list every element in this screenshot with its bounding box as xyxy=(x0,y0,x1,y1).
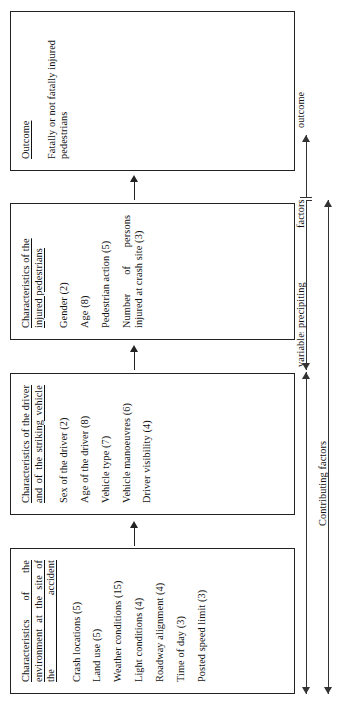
span-arrow-left xyxy=(302,363,310,370)
list-item: Sex of the driver (2) xyxy=(58,385,70,503)
box-vehicle-list: Sex of the driver (2) Age of the driver … xyxy=(58,385,154,503)
span-arrow-left xyxy=(324,687,332,694)
box-outcome-title: Outcome xyxy=(20,23,33,159)
arrow-right-icon xyxy=(129,520,139,546)
rotated-figure-wrapper: Characteristics of the environment at th… xyxy=(0,0,343,705)
list-item: Land use (5) xyxy=(91,560,103,682)
list-item: Weather conditions (15) xyxy=(112,560,124,682)
list-item: Roadway alignment (4) xyxy=(154,560,166,682)
span-arrow-right xyxy=(324,200,332,207)
arrow-shaft xyxy=(134,350,135,370)
list-item: Posted speed limit (3) xyxy=(196,560,208,682)
list-item: Crash locations (5) xyxy=(71,560,83,682)
list-item: Age (8) xyxy=(79,215,91,328)
arrow-shaft xyxy=(134,180,135,200)
arrow-right-icon xyxy=(129,344,139,370)
list-item: Driver visibility (4) xyxy=(141,385,153,503)
span-arrow-right xyxy=(302,135,310,142)
span-arrow-left xyxy=(302,687,310,694)
list-item: Vehicle manoeuvres (6) xyxy=(121,385,133,503)
box-environment-title: Characteristics of the environment at th… xyxy=(20,560,58,682)
box-pedestrian-list: Gender (2) Age (8) Pedestrian action (5)… xyxy=(58,215,145,328)
box-environment-list: Crash locations (5) Land use (5) Weather… xyxy=(71,560,208,682)
span-line xyxy=(306,135,307,198)
arrow-head xyxy=(130,345,138,352)
box-pedestrian-title: Characteristics of the injured pedestria… xyxy=(20,215,45,328)
label-outcome: outcome xyxy=(295,88,306,132)
list-item: Pedestrian action (5) xyxy=(100,215,112,328)
arrow-head xyxy=(130,521,138,528)
flow-diagram: Characteristics of the environment at th… xyxy=(0,0,343,705)
box-vehicle-title: Characteristics of the driver and of the… xyxy=(20,385,45,503)
arrow-shaft xyxy=(134,526,135,546)
list-item: Gender (2) xyxy=(58,215,70,328)
label-factors: factors xyxy=(295,195,306,232)
list-item: Number of persons injured at crash site … xyxy=(121,215,146,328)
span-tick-left xyxy=(300,197,312,198)
box-outcome-body: Fatally or not fatally injured pedestria… xyxy=(46,23,72,159)
span-arrow-right xyxy=(302,372,310,379)
arrow-head xyxy=(130,175,138,182)
box-pedestrian: Characteristics of the injured pedestria… xyxy=(10,203,295,340)
arrow-right-icon xyxy=(129,174,139,200)
box-environment: Characteristics of the environment at th… xyxy=(10,548,295,694)
list-item: Age of the driver (8) xyxy=(79,385,91,503)
axis-outer: Contributing factors xyxy=(318,0,343,705)
list-item: Vehicle type (7) xyxy=(100,385,112,503)
span-outcome xyxy=(296,135,316,198)
box-vehicle: Characteristics of the driver and of the… xyxy=(10,373,295,515)
span-variables xyxy=(296,372,316,694)
box-outcome: Outcome Fatally or not fatally injured p… xyxy=(10,11,295,171)
label-precipitating: precipiting xyxy=(295,278,306,332)
list-item: Time of day (3) xyxy=(175,560,187,682)
label-contributing-factors: Contributing factors xyxy=(317,437,328,530)
list-item: Light conditions (4) xyxy=(133,560,145,682)
span-line xyxy=(306,372,307,694)
